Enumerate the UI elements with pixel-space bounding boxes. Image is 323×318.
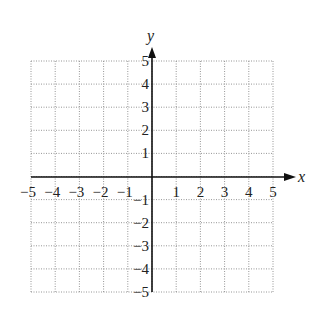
- y-tick-label: 5: [142, 53, 150, 69]
- x-tick-label: −2: [93, 184, 109, 200]
- y-tick-label: 3: [142, 99, 150, 115]
- x-tick-label: −4: [44, 184, 60, 200]
- y-tick-label: 1: [142, 145, 150, 161]
- x-tick-label: 4: [245, 184, 253, 200]
- y-tick-label: −3: [133, 238, 149, 254]
- x-tick-label: −1: [117, 184, 133, 200]
- x-tick-label: −5: [20, 184, 36, 200]
- y-tick-label: 2: [142, 122, 150, 138]
- y-axis-arrow-icon: [148, 47, 156, 58]
- x-axis-label: x: [297, 168, 305, 185]
- y-tick-label: −5: [133, 284, 149, 300]
- x-tick-label: −3: [68, 184, 84, 200]
- x-axis-arrow-icon: [284, 173, 296, 181]
- y-tick-label: 4: [142, 76, 150, 92]
- y-tick-label: −2: [133, 215, 149, 231]
- x-tick-label: 3: [221, 184, 229, 200]
- y-tick-label: −4: [133, 261, 149, 277]
- x-tick-label: 1: [172, 184, 180, 200]
- coordinate-plane: x y −5−4−3−2−112345 54321−1−2−3−4−5: [0, 0, 323, 318]
- y-tick-label: −1: [133, 192, 149, 208]
- x-tick-label: 5: [269, 184, 277, 200]
- y-axis-label: y: [145, 27, 155, 45]
- x-tick-label: 2: [197, 184, 205, 200]
